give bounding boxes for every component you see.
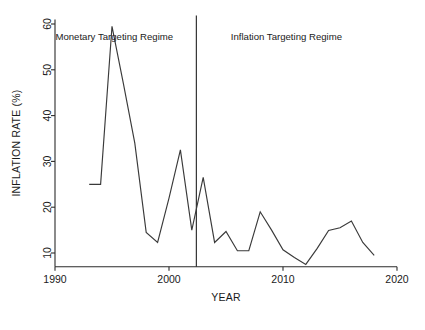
annotation-monetary-targeting-regime: Monetary Targeting Regime	[55, 31, 173, 42]
y-tick-label: 10	[41, 247, 53, 259]
y-tick-label: 20	[41, 201, 53, 213]
figure-caption	[6, 312, 286, 328]
y-axis-title: INFLATION RATE (%)	[10, 90, 22, 197]
x-axis-title: YEAR	[211, 291, 241, 303]
x-tick-label: 2010	[271, 273, 295, 285]
y-tick-label: 60	[41, 18, 53, 30]
y-tick-label: 40	[41, 110, 53, 122]
x-tick-label: 1990	[43, 273, 67, 285]
annotation-inflation-targeting-regime: Inflation Targeting Regime	[231, 31, 342, 42]
x-tick-label: 2020	[385, 273, 409, 285]
figure-container: 102030405060 1990200020102020 Monetary T…	[0, 0, 425, 330]
inflation-rate-line-chart: 102030405060 1990200020102020 Monetary T…	[0, 0, 425, 330]
x-tick-label: 2000	[157, 273, 181, 285]
y-tick-label: 50	[41, 64, 53, 76]
y-tick-label: 30	[41, 155, 53, 167]
